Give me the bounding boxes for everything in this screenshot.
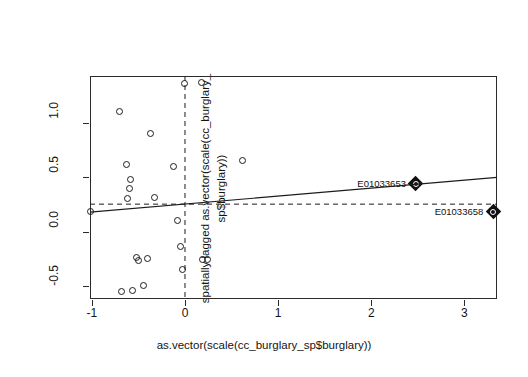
y-axis-title: spatially lagged as.vector(scale(cc_burg… <box>0 0 46 377</box>
y-tick <box>83 177 89 178</box>
plot-frame <box>90 76 497 299</box>
x-tick-label: 3 <box>444 306 484 320</box>
highlighted-point-marker <box>487 205 500 218</box>
x-axis-title: as.vector(scale(cc_burglary_sp$burglary)… <box>0 339 528 351</box>
x-tick-label: 1 <box>258 306 298 320</box>
x-tick-label: 2 <box>351 306 391 320</box>
y-tick <box>83 123 89 124</box>
y-tick-label: 0.5 <box>47 156 61 196</box>
scatter-point <box>126 185 133 192</box>
highlighted-point-marker <box>409 177 422 190</box>
y-tick-label: -0.5 <box>47 265 61 305</box>
y-tick-label: 1.0 <box>47 102 61 142</box>
point-label: E01033653 <box>301 178 406 189</box>
y-tick <box>83 286 89 287</box>
point-label: E01033658 <box>378 206 483 217</box>
scatter-point <box>179 266 186 273</box>
x-tick-label: -1 <box>72 306 112 320</box>
y-tick-label: 0.0 <box>47 211 61 251</box>
scatter-point <box>118 288 125 295</box>
x-tick-label: 0 <box>165 306 205 320</box>
y-tick <box>83 232 89 233</box>
moran-scatterplot: spatially lagged as.vector(scale(cc_burg… <box>0 0 528 377</box>
scatter-point <box>123 161 130 168</box>
